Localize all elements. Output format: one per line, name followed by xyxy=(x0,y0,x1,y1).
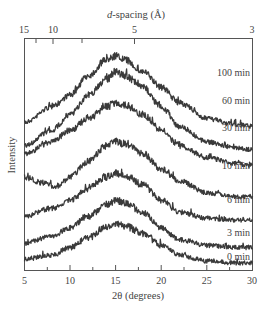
left-axis-title: Intensity xyxy=(6,136,17,173)
bottom-axis xyxy=(47,265,229,271)
curve-label-30min: 30 min xyxy=(222,122,250,133)
bottom-tick-label: 15 xyxy=(111,275,121,286)
xrd-curve-10min xyxy=(25,138,253,199)
curve-labels: 100 min 60 min 30 min 10 min 6 min 3 min… xyxy=(217,67,250,262)
top-tick-label: 10 xyxy=(48,24,58,35)
top-tick-labels: 15 10 5 3 xyxy=(19,24,255,35)
xrd-chart: 15 10 5 3 d-spacing (Å) 5 10 15 20 25 30… xyxy=(0,0,265,311)
curve-label-10min: 10 min xyxy=(222,160,250,171)
curves xyxy=(25,53,253,266)
curve-label-0min: 0 min xyxy=(227,251,250,262)
curve-label-6min: 6 min xyxy=(227,194,250,205)
bottom-tick-label: 20 xyxy=(156,275,166,286)
top-tick-label: 15 xyxy=(19,24,29,35)
top-tick-label: 5 xyxy=(132,24,137,35)
bottom-tick-label: 25 xyxy=(202,275,212,286)
curve-label-100min: 100 min xyxy=(217,67,250,78)
xrd-curve-6min xyxy=(25,169,253,222)
xrd-curve-0min xyxy=(25,221,253,265)
curve-label-60min: 60 min xyxy=(222,95,250,106)
xrd-curve-30min xyxy=(25,100,253,167)
bottom-tick-labels: 5 10 15 20 25 30 xyxy=(22,275,257,286)
bottom-axis-title: 2θ (degrees) xyxy=(112,290,164,302)
top-axis-title: d-spacing (Å) xyxy=(107,9,166,21)
top-axis xyxy=(36,39,135,45)
top-tick-label: 3 xyxy=(250,24,255,35)
bottom-tick-label: 30 xyxy=(247,275,257,286)
bottom-tick-label: 10 xyxy=(65,275,75,286)
curve-label-3min: 3 min xyxy=(227,227,250,238)
bottom-tick-label: 5 xyxy=(22,275,27,286)
